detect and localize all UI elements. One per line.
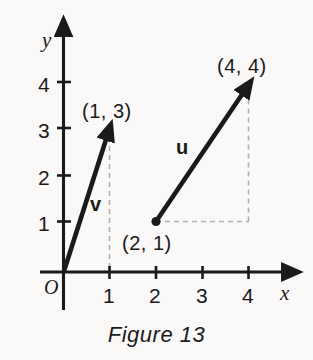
vector-u-tail-dot bbox=[151, 217, 160, 226]
x-axis-label: x bbox=[280, 283, 289, 304]
y-tick-label-4: 4 bbox=[38, 74, 50, 95]
figure-caption: Figure 13 bbox=[0, 322, 313, 348]
point-label-1-3: (1, 3) bbox=[82, 101, 132, 121]
x-tick-label-3: 3 bbox=[196, 285, 208, 306]
point-label-4-4: (4, 4) bbox=[217, 56, 267, 76]
point-label-2-1: (2, 1) bbox=[122, 233, 172, 253]
y-tick-label-2: 2 bbox=[38, 167, 50, 188]
vector-u-shaft bbox=[156, 93, 243, 222]
x-tick-label-4: 4 bbox=[242, 285, 254, 306]
x-tick-label-1: 1 bbox=[103, 285, 115, 306]
figure-13-container: y x O 1 2 3 4 1 2 3 4 (1, 3) (4, 4) (2, … bbox=[0, 0, 313, 360]
vector-u bbox=[151, 93, 243, 226]
vector-label-v: v bbox=[90, 194, 101, 214]
y-tick-label-3: 3 bbox=[38, 120, 50, 141]
y-axis-label: y bbox=[42, 30, 51, 51]
origin-label: O bbox=[44, 277, 58, 297]
x-tick-label-2: 2 bbox=[149, 285, 161, 306]
y-tick-label-1: 1 bbox=[38, 213, 50, 234]
vector-label-u: u bbox=[176, 137, 188, 157]
